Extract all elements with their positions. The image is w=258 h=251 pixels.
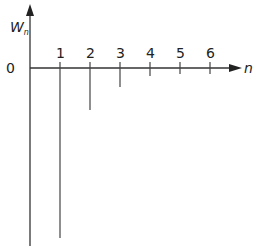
x-axis-label: n — [244, 60, 253, 76]
x-axis-arrow-icon — [229, 64, 242, 72]
x-tick-label: 1 — [56, 45, 65, 61]
x-tick-label: 6 — [206, 45, 215, 61]
stem-chart: Wn 0 n 123456 — [0, 0, 258, 251]
y-axis-arrow-icon — [26, 4, 34, 16]
x-tick-label: 5 — [176, 45, 185, 61]
x-tick-label: 3 — [116, 45, 125, 61]
origin-label: 0 — [6, 60, 15, 76]
x-tick-label: 2 — [86, 45, 95, 61]
x-tick-label: 4 — [146, 45, 155, 61]
y-axis-label: Wn — [10, 19, 29, 37]
